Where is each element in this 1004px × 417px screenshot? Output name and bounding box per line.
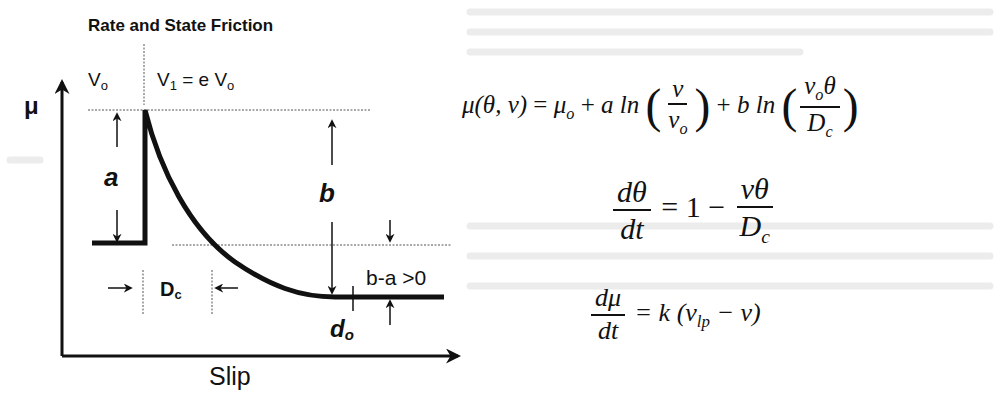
eq1-lhs: μ(θ, v): [462, 91, 527, 118]
eq1-a-ln: a ln: [601, 91, 639, 118]
equation-friction-rate: dμdt = k (vlp − v): [588, 284, 761, 345]
diagram-title: Rate and State Friction: [88, 16, 273, 35]
eq1-f1-den: vo: [664, 105, 691, 139]
d0-label: do: [330, 315, 354, 343]
eq1-fraction-state: voθDc: [800, 72, 840, 142]
eq1-paren-close-1: ): [695, 80, 711, 132]
eq2-rhs-fraction: vθDc: [736, 172, 774, 247]
y-axis-label: μ: [24, 92, 39, 119]
eq3-lhs-den: dt: [594, 316, 622, 346]
eq3-lhs-num: dμ: [591, 284, 625, 316]
eq1-fraction-velocity: vvo: [664, 75, 691, 139]
eq2-f-num: vθ: [737, 172, 773, 208]
equation-state-evolution: dθdt = 1 − vθDc: [610, 172, 777, 247]
eq1-paren-close-2: ): [843, 80, 859, 132]
eq1-equals: =: [527, 91, 554, 118]
eq1-f2-num-base: v: [804, 72, 815, 99]
eq2-f-den-base: D: [740, 209, 762, 242]
eq2-lhs-fraction: dθdt: [613, 175, 651, 245]
b-label: b: [319, 178, 335, 208]
eq1-f1-den-base: v: [668, 106, 679, 133]
eq2-lhs-num: dθ: [613, 175, 651, 211]
dc-label: Dc: [160, 278, 182, 302]
eq1-mu0: μ: [554, 91, 567, 118]
eq1-plus2: +: [710, 91, 737, 118]
eq1-f2-num: voθ: [800, 72, 840, 108]
eq3-lhs-fraction: dμdt: [591, 284, 625, 345]
eq1-b-ln: b ln: [737, 91, 775, 118]
eq1-plus1: +: [574, 91, 601, 118]
eq1-f2-den-base: D: [807, 109, 825, 136]
eq3-rhs-sub: lp: [697, 312, 710, 331]
a-label: a: [104, 162, 118, 192]
eq1-f1-num: v: [668, 75, 687, 106]
eq3-rhs-end: − v): [710, 298, 761, 327]
eq1-paren-open-2: (: [781, 80, 797, 132]
b-minus-a-label: b-a >0: [366, 266, 426, 289]
eq2-f-den-sub: c: [761, 226, 770, 247]
eq1-f2-num-rest: θ: [823, 72, 835, 99]
v1-label: V1 = e Vo: [157, 69, 234, 93]
eq1-paren-open-1: (: [645, 80, 661, 132]
eq3-rhs: = k (v: [628, 298, 697, 327]
eq2-rhs: = 1 −: [654, 190, 733, 223]
eq1-f2-den-sub: c: [825, 123, 832, 141]
x-axis-label: Slip: [209, 362, 251, 390]
friction-diagram: Rate and State Friction μ Slip Vo V1 = e…: [0, 0, 1004, 417]
eq1-f1-den-sub: o: [679, 120, 687, 138]
v0-label: Vo: [88, 69, 108, 93]
eq2-lhs-den: dt: [616, 211, 647, 245]
eq2-f-den: Dc: [736, 208, 774, 247]
equation-friction-law: μ(θ, v) = μo + a ln (vvo) + b ln (voθDc): [462, 72, 859, 142]
eq1-f2-den: Dc: [803, 108, 836, 142]
